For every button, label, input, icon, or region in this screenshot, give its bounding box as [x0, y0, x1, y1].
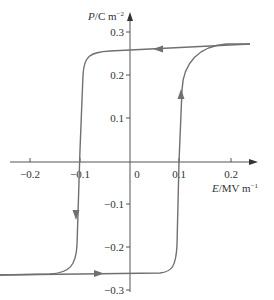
y-tick-label: −0.1	[104, 198, 124, 210]
arrow-left-icon	[153, 46, 163, 53]
arrow-up-icon	[178, 89, 185, 99]
ascending-branch	[0, 44, 250, 275]
y-tick-label: 0.2	[110, 69, 124, 81]
y-tick-label: 0.1	[110, 112, 124, 124]
y-tick-label: −0.2	[104, 241, 124, 253]
arrow-right-icon	[94, 270, 104, 277]
y-axis-title: P/C m−2	[87, 10, 124, 22]
y-tick-label: −0.3	[104, 284, 124, 296]
y-axis: 0.3 0.2 0.1 −0.1 −0.2 −0.3 P/C m−2	[87, 10, 133, 296]
x-tick-label: 0.2	[224, 168, 238, 180]
x-axis-title: E/MV m−1	[211, 182, 259, 194]
x-axis: −0.2 −0.1 0 0.1 0.2 E/MV m−1	[10, 158, 258, 194]
y-axis-arrow-icon	[127, 12, 133, 21]
descending-branch	[0, 44, 250, 275]
hysteresis-loop	[0, 44, 250, 275]
direction-arrows	[73, 46, 185, 278]
y-tick-label: 0.3	[110, 26, 124, 38]
hysteresis-chart: −0.2 −0.1 0 0.1 0.2 E/MV m−1 0.3 0.2 0.1…	[0, 0, 274, 300]
x-tick-label: 0	[134, 168, 140, 180]
x-tick-label: −0.2	[20, 168, 40, 180]
x-axis-arrow-icon	[249, 159, 258, 165]
